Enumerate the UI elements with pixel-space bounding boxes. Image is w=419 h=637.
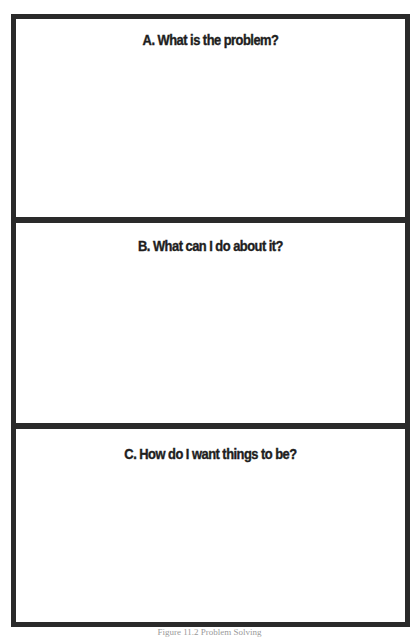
section-c: C. How do I want things to be?: [16, 429, 405, 622]
section-b-answer-area: [24, 263, 397, 415]
section-c-heading: C. How do I want things to be?: [43, 445, 378, 462]
worksheet-frame: A. What is the problem? B. What can I do…: [11, 14, 410, 627]
figure-caption: Figure 11.2 Problem Solving: [0, 628, 419, 637]
section-a-heading: A. What is the problem?: [43, 31, 378, 48]
section-b-heading: B. What can I do about it?: [43, 237, 378, 254]
section-c-answer-area: [24, 469, 397, 614]
section-b: B. What can I do about it?: [16, 223, 405, 423]
section-a: A. What is the problem?: [16, 19, 405, 217]
section-a-answer-area: [24, 59, 397, 209]
